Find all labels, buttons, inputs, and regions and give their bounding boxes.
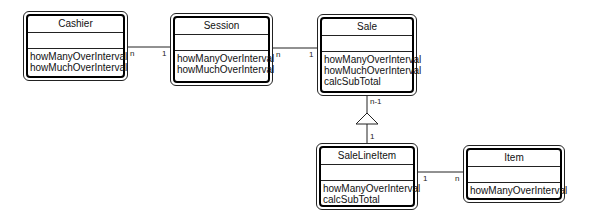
operation: howManyOverInterval <box>323 183 411 194</box>
multiplicity-label: n-1 <box>370 97 382 106</box>
operations-compartment: howManyOverInterval <box>468 183 560 196</box>
multiplicity-label: n <box>455 174 459 183</box>
multiplicity-label: 1 <box>309 50 313 59</box>
operation: calcSubTotal <box>323 194 411 205</box>
attributes-compartment <box>321 165 413 181</box>
operation: howManyOverInterval <box>324 54 410 65</box>
operation: howMuchOverInterval <box>30 62 121 73</box>
attributes-compartment <box>468 167 560 183</box>
class-name: Item <box>468 150 560 167</box>
class-name: SaleLineItem <box>321 148 413 165</box>
class-cashier[interactable]: Cashier howManyOverInterval howMuchOverI… <box>23 11 128 81</box>
multiplicity-label: 1 <box>423 174 427 183</box>
multiplicity-label: 1 <box>162 49 166 58</box>
operations-compartment: howManyOverInterval howMuchOverInterval <box>175 51 268 75</box>
attributes-compartment <box>28 33 123 49</box>
multiplicity-label: 1 <box>370 132 374 141</box>
class-name: Session <box>175 18 268 35</box>
operations-compartment: howManyOverInterval howMuchOverInterval <box>28 49 123 73</box>
class-item[interactable]: Item howManyOverInterval <box>463 145 565 203</box>
operation: howManyOverInterval <box>177 53 266 64</box>
multiplicity-label: n <box>130 49 134 58</box>
operation: howManyOverInterval <box>470 185 558 196</box>
class-salelineitem[interactable]: SaleLineItem howManyOverInterval calcSub… <box>316 143 418 210</box>
class-sale[interactable]: Sale howManyOverInterval howMuchOverInte… <box>317 14 417 96</box>
triangle-icon <box>356 113 378 124</box>
operations-compartment: howManyOverInterval howMuchOverInterval … <box>322 52 412 87</box>
multiplicity-label: n <box>276 50 280 59</box>
operation: howManyOverInterval <box>30 51 121 62</box>
attributes-compartment <box>322 36 412 52</box>
class-name: Sale <box>322 19 412 36</box>
class-session[interactable]: Session howManyOverInterval howMuchOverI… <box>170 13 273 86</box>
operations-compartment: howManyOverInterval calcSubTotal <box>321 181 413 205</box>
operation: howMuchOverInterval <box>324 65 410 76</box>
operation: calcSubTotal <box>324 76 410 87</box>
attributes-compartment <box>175 35 268 51</box>
operation: howMuchOverInterval <box>177 64 266 75</box>
class-name: Cashier <box>28 16 123 33</box>
